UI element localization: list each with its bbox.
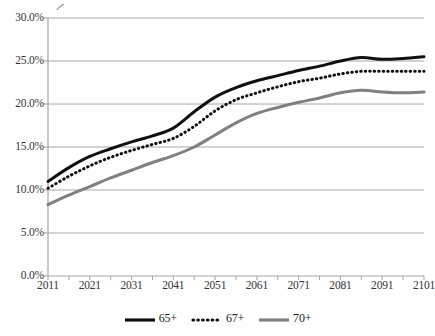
x-tick-label: 2051 xyxy=(195,279,235,291)
x-tick-label: 2071 xyxy=(279,279,319,291)
series-lines xyxy=(48,57,424,205)
legend-item-67[interactable]: 67+ xyxy=(191,311,244,326)
y-tick-label: 15.0% xyxy=(0,141,44,152)
legend-label-70: 70+ xyxy=(293,311,311,326)
legend-item-65[interactable]: 65+ xyxy=(124,311,177,326)
x-tick-label: 2091 xyxy=(362,279,402,291)
series-line-65plus xyxy=(48,57,424,182)
chart-container: 0.0%5.0%10.0%15.0%20.0%25.0%30.0% 201120… xyxy=(0,0,435,336)
y-tick-label: 5.0% xyxy=(0,227,44,238)
x-tick-label: 2041 xyxy=(153,279,193,291)
x-axis-labels: 2011202120312041205120612071208120912101 xyxy=(0,279,435,299)
x-tick-label: 2081 xyxy=(320,279,360,291)
chart-legend: 65+ 67+ 70+ xyxy=(0,306,435,330)
x-tick-label: 2061 xyxy=(237,279,277,291)
x-tick-label: 2101 xyxy=(404,279,435,291)
legend-label-65: 65+ xyxy=(159,311,177,326)
y-tick-label: 10.0% xyxy=(0,184,44,195)
y-tick-label: 30.0% xyxy=(0,12,44,23)
legend-item-70[interactable]: 70+ xyxy=(258,311,311,326)
y-tick-label: 25.0% xyxy=(0,55,44,66)
x-tick-label: 2031 xyxy=(112,279,152,291)
legend-swatch-dotted-black xyxy=(191,312,223,324)
y-tick-label: 20.0% xyxy=(0,98,44,109)
x-tick-label: 2011 xyxy=(28,279,68,291)
x-tick-label: 2021 xyxy=(70,279,110,291)
legend-swatch-solid-gray xyxy=(258,312,290,324)
legend-label-67: 67+ xyxy=(226,311,244,326)
legend-swatch-solid-black xyxy=(124,312,156,324)
